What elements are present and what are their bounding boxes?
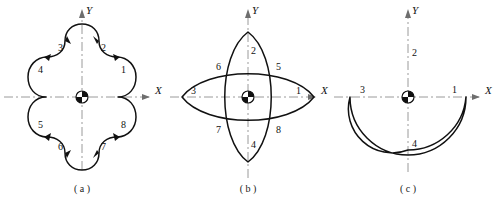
point-label-3: 3 <box>360 84 365 95</box>
axes-group-a <box>4 9 150 170</box>
y-axis-label: Y <box>412 4 420 16</box>
origin-quadrant-bottom-left <box>76 97 82 103</box>
point-label-8: 8 <box>276 124 281 135</box>
y-axis-arrowhead <box>405 9 411 18</box>
point-label-1: 1 <box>296 85 301 96</box>
x-axis-arrowhead <box>142 94 150 100</box>
arrowhead-seg-5 <box>44 133 51 141</box>
point-label-3: 3 <box>191 85 196 96</box>
origin-marker <box>76 91 88 103</box>
point-label-2: 2 <box>412 47 417 58</box>
origin-quadrant-top-right <box>408 91 414 97</box>
origin-marker <box>402 91 414 103</box>
panel-caption-c: ( c ) <box>400 183 416 195</box>
origin-quadrant-bottom-left <box>402 97 408 103</box>
arrowhead-seg-4 <box>44 54 51 61</box>
point-label-1: 1 <box>121 64 126 75</box>
origin-marker <box>242 91 254 103</box>
point-label-7: 7 <box>216 124 221 135</box>
origin-quadrant-top-right <box>82 91 88 97</box>
point-label-5: 5 <box>276 61 281 72</box>
panel-caption-a: ( a ) <box>74 183 90 195</box>
diagram-panel-a: X Y 1 2 3 4 5 6 7 8 <box>0 0 172 205</box>
x-axis-label: X <box>154 84 163 96</box>
x-axis-label: X <box>320 84 329 96</box>
diagram-panel-c: X Y 1 2 3 4 ( c ) <box>332 0 503 205</box>
y-axis-arrowhead <box>245 9 251 18</box>
y-axis-label: Y <box>86 4 94 16</box>
x-axis-arrowhead <box>472 94 480 100</box>
y-axis-arrowhead <box>79 9 85 18</box>
point-label-4: 4 <box>251 139 256 150</box>
arrowhead-seg-8 <box>113 133 120 141</box>
origin-quadrant-bottom-left <box>242 97 248 103</box>
point-label-2: 2 <box>251 45 256 56</box>
point-label-4: 4 <box>38 64 43 75</box>
origin-quadrant-top-right <box>248 91 254 97</box>
y-axis-label: Y <box>252 4 260 16</box>
panel-caption-b: ( b ) <box>240 183 257 195</box>
point-label-1: 1 <box>452 84 457 95</box>
point-label-6: 6 <box>216 61 221 72</box>
arrowhead-seg-1 <box>113 54 120 61</box>
point-label-5: 5 <box>38 119 43 130</box>
point-label-8: 8 <box>121 119 126 130</box>
point-label-3: 3 <box>58 42 63 53</box>
x-axis-label: X <box>484 84 493 96</box>
diagram-panel-b: X Y 1 2 3 4 5 6 7 8 ( b ) <box>166 0 338 205</box>
circle-with-notch-path <box>348 97 466 155</box>
point-label-6: 6 <box>58 141 63 152</box>
point-label-4: 4 <box>412 138 417 149</box>
point-label-2: 2 <box>101 42 106 53</box>
point-label-7: 7 <box>101 141 106 152</box>
figure-root: X Y 1 2 3 4 5 6 7 8 <box>0 0 503 205</box>
